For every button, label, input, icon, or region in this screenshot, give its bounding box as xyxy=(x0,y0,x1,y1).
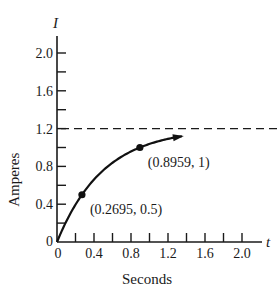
y-tick-label: 0 xyxy=(46,234,53,249)
x-tick-label: 1.2 xyxy=(159,246,177,261)
x-ticks xyxy=(76,233,243,242)
x-tick-label: 0 xyxy=(55,246,62,261)
x-tick-label: 2.0 xyxy=(233,246,251,261)
y-axis-label: Amperes xyxy=(6,153,22,207)
data-point-label: (0.8959, 1) xyxy=(148,155,210,171)
y-tick-label: 2.0 xyxy=(36,46,54,61)
x-tick-labels: 00.40.81.21.62.0 xyxy=(55,246,251,261)
data-point xyxy=(136,144,143,151)
chart: 00.40.81.21.62.0 00.40.81.21.62.0 (0.269… xyxy=(0,0,279,300)
series-line-current xyxy=(57,136,182,242)
arrowhead-icon xyxy=(172,134,183,141)
y-tick-label: 1.6 xyxy=(36,84,54,99)
x-tick-label: 0.8 xyxy=(122,246,140,261)
x-tick-label: 1.6 xyxy=(196,246,214,261)
y-tick-label: 1.2 xyxy=(36,122,54,137)
x-axis-label: Seconds xyxy=(122,271,172,287)
x-axis-variable: t xyxy=(266,234,271,250)
data-point xyxy=(78,191,85,198)
x-tick-label: 0.4 xyxy=(85,246,103,261)
y-tick-labels: 00.40.81.21.62.0 xyxy=(36,46,54,249)
y-tick-label: 0.8 xyxy=(36,159,54,174)
y-tick-label: 0.4 xyxy=(36,197,54,212)
y-ticks xyxy=(57,53,66,223)
y-axis-variable: I xyxy=(52,15,59,31)
data-points: (0.2695, 0.5)(0.8959, 1) xyxy=(78,144,210,218)
data-point-label: (0.2695, 0.5) xyxy=(90,202,163,218)
